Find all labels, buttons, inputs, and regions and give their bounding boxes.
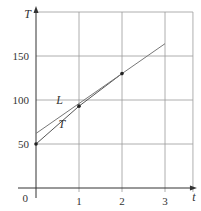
series-label-L: L	[55, 93, 63, 107]
y-axis-arrow-icon	[34, 6, 39, 13]
labels: 123501001500TtTL	[13, 7, 197, 207]
origin-label: 0	[23, 192, 29, 204]
series-label-T: T	[58, 117, 66, 131]
x-tick-label: 3	[162, 195, 168, 207]
chart: 123501001500TtTL	[0, 0, 201, 211]
axes	[18, 6, 197, 198]
x-tick-label: 2	[119, 195, 125, 207]
data-point	[120, 72, 124, 76]
x-axis-label: t	[192, 190, 196, 204]
series	[34, 44, 165, 146]
y-axis-label: T	[24, 7, 32, 21]
y-tick-label: 50	[18, 138, 30, 150]
y-tick-label: 100	[13, 94, 30, 106]
series-L-line	[36, 44, 165, 134]
y-tick-label: 150	[13, 50, 30, 62]
x-tick-label: 1	[76, 195, 82, 207]
data-point	[77, 104, 81, 108]
data-point	[34, 142, 38, 146]
